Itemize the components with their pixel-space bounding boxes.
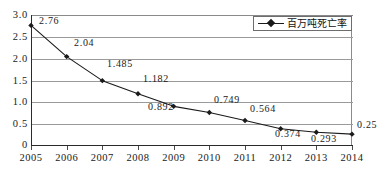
data-point-2011 (242, 118, 247, 123)
data-point-2010 (207, 110, 212, 115)
point-label-2009: 0.892 (148, 102, 174, 112)
point-label-2006: 2.04 (74, 38, 94, 48)
legend-marker-icon (258, 19, 284, 28)
point-label-2007: 1.485 (107, 59, 133, 69)
point-label-2012: 0.374 (275, 129, 301, 139)
point-label-2008: 1.182 (143, 74, 169, 84)
point-label-2005: 2.76 (39, 16, 59, 26)
data-point-2008 (135, 91, 140, 96)
data-point-2014 (349, 131, 354, 136)
chart-legend: 百万吨死亡率 (253, 16, 352, 31)
point-label-2010: 0.749 (214, 95, 240, 105)
point-label-2014: 0.25 (357, 120, 377, 130)
legend-series-label: 百万吨死亡率 (287, 18, 347, 29)
point-label-2011: 0.564 (250, 104, 276, 114)
point-label-2013: 0.293 (311, 134, 337, 144)
line-chart: 3.0 2.5 2.0 1.5 1.0 0.5 0 2005 2006 2007… (0, 0, 385, 179)
